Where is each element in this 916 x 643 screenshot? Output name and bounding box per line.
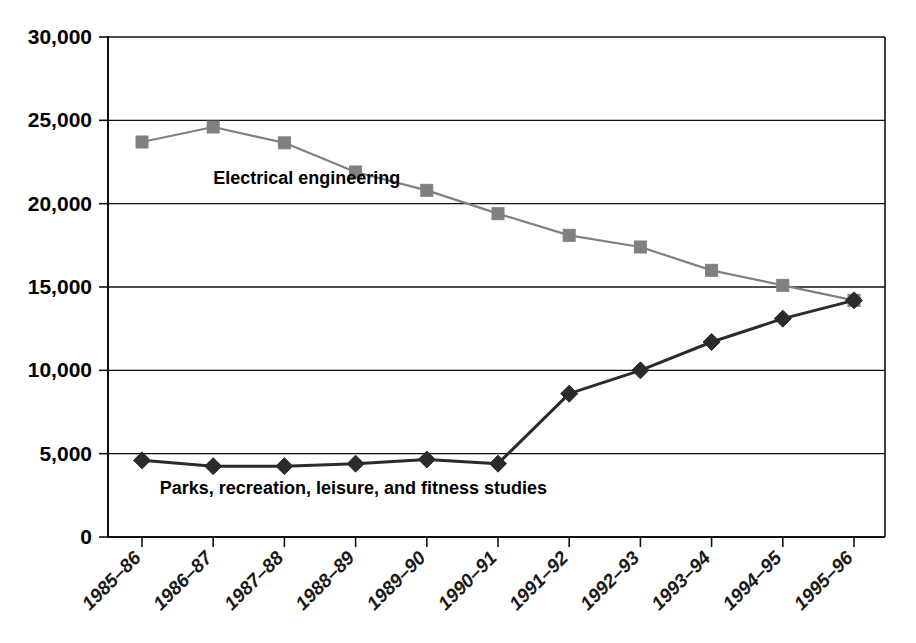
y-tick-label: 10,000 [28, 358, 92, 381]
y-tick-label: 15,000 [28, 275, 92, 298]
y-tick-label: 0 [80, 525, 92, 548]
data-point-marker [136, 136, 148, 148]
data-point-marker [421, 184, 433, 196]
line-chart: 05,00010,00015,00020,00025,00030,000 198… [0, 0, 916, 643]
data-point-marker [492, 208, 504, 220]
electrical-engineering-label: Electrical engineering [213, 168, 400, 188]
y-tick-label: 30,000 [28, 25, 92, 48]
data-point-marker [634, 241, 646, 253]
y-tick-label: 5,000 [39, 442, 92, 465]
y-tick-label: 25,000 [28, 108, 92, 131]
data-point-marker [706, 264, 718, 276]
data-point-marker [563, 229, 575, 241]
chart-page: 05,00010,00015,00020,00025,00030,000 198… [0, 0, 916, 643]
data-point-marker [777, 279, 789, 291]
data-point-marker [207, 121, 219, 133]
parks-label: Parks, recreation, leisure, and fitness … [160, 478, 547, 498]
y-tick-label: 20,000 [28, 192, 92, 215]
data-point-marker [278, 137, 290, 149]
